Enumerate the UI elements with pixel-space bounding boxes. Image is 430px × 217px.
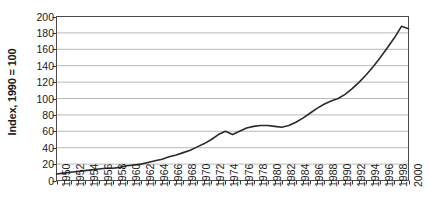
x-tick-label: 1954 [89,163,100,186]
x-tick-label: 1980 [272,163,283,186]
x-tick-label: 1990 [342,163,353,186]
x-tick-label: 1984 [300,163,311,186]
x-tick-label: 1986 [314,163,325,186]
x-tick-label: 1958 [117,163,128,186]
x-tick-label: 1970 [201,163,212,186]
x-tick-label: 1976 [244,163,255,186]
x-tick-label: 1988 [328,163,339,186]
x-tick-label: 1960 [131,163,142,186]
x-tick-label: 1974 [229,163,240,186]
x-tick-label: 1964 [159,163,170,186]
x-tick-label: 1998 [398,163,409,186]
x-tick-label: 1978 [258,163,269,186]
x-tick-label: 1994 [370,163,381,186]
x-tick-label: 1952 [75,163,86,186]
x-tick-label: 1950 [61,163,72,186]
x-tick-label: 1982 [286,163,297,186]
x-tick-label: 1966 [173,163,184,186]
x-tick-label: 1962 [145,163,156,186]
x-tick-label: 1968 [187,163,198,186]
x-tick-label: 1996 [384,163,395,186]
x-tick-label: 1992 [356,163,367,186]
x-tick-label: 1972 [215,163,226,186]
chart-container: Index, 1990 = 100 0204060801001201401601… [0,0,430,217]
x-axis-tick-labels: 1950195219541956195819601962196419661968… [0,0,430,217]
x-tick-label: 1956 [103,163,114,186]
x-tick-label: 2000 [413,163,424,186]
